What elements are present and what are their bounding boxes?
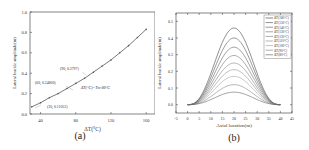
caption-a: (a): [60, 130, 100, 141]
x-tick-label-b: -5: [174, 116, 177, 121]
legend-label: ΔT(150°C): [274, 21, 289, 25]
x-axis-label-b: Axial location(m): [216, 123, 252, 128]
y-tick-label-b: 0.1: [168, 86, 173, 91]
x-tick-label-b: 45: [290, 116, 294, 121]
x-tick-label-b: 35: [267, 116, 271, 121]
y-tick-label-b: 0.2: [168, 69, 173, 74]
legend-label: ΔT(140°C): [274, 26, 289, 30]
chart-b: -50510152025303540450.00.10.20.30.40.5Ax…: [0, 0, 309, 150]
legend-label: ΔT(160°C): [274, 16, 289, 20]
x-tick-label-b: 0: [187, 116, 189, 121]
y-axis-label-b: Lateral buckle amplitude(m): [157, 37, 162, 89]
x-tick-label-b: 40: [278, 116, 282, 121]
legend-label: ΔT(110°C): [274, 39, 289, 43]
legend-label: ΔT(90°C): [274, 49, 287, 53]
x-tick-label-b: 25: [244, 116, 248, 121]
x-tick-label-b: 20: [232, 116, 236, 121]
x-tick-label-b: 5: [198, 116, 200, 121]
x-tick-label-b: 30: [255, 116, 259, 121]
x-tick-label-b: 15: [220, 116, 224, 121]
y-tick-label-b: 0.0: [168, 102, 173, 107]
legend-label: ΔT(100°C): [274, 44, 289, 48]
x-tick-label-b: 10: [209, 116, 213, 121]
legend-label: ΔT(120°C): [274, 35, 289, 39]
y-tick-label-b: 0.3: [168, 52, 173, 57]
y-tick-label-b: 0.4: [168, 36, 173, 41]
legend-label: ΔT(130°C): [274, 30, 289, 34]
caption-b: (b): [214, 132, 254, 143]
legend-label: ΔT(80°C): [274, 53, 287, 57]
y-tick-label-b: 0.5: [168, 19, 173, 24]
